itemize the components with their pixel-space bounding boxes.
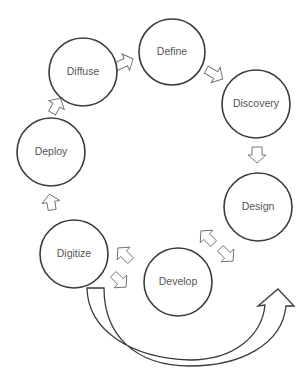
node-define: Define — [139, 19, 205, 85]
node-label: Deploy — [35, 145, 68, 157]
node-label: Design — [242, 200, 275, 212]
node-deploy: Deploy — [17, 118, 85, 186]
node-diffuse: Diffuse — [49, 38, 117, 106]
node-label: Discovery — [233, 97, 280, 109]
node-label: Define — [157, 45, 188, 57]
arrow-digitize-to-deploy-icon — [41, 193, 62, 212]
arrow-develop-to-design-icon — [195, 225, 220, 250]
arrow-develop-to-digitize-icon — [112, 242, 137, 267]
node-label: Diffuse — [67, 65, 100, 77]
node-design: Design — [224, 173, 292, 241]
arrow-define-to-discovery-icon — [202, 62, 227, 87]
node-digitize: Digitize — [40, 220, 108, 288]
node-discovery: Discovery — [222, 70, 290, 138]
arrow-design-to-develop-icon — [214, 242, 239, 267]
arrow-discovery-to-design-icon — [248, 147, 266, 163]
arrow-digitize-to-develop-icon — [107, 268, 132, 293]
cycle-diagram: Define Discovery Design Develop Digitize… — [0, 0, 308, 375]
node-label: Digitize — [57, 247, 92, 259]
node-label: Develop — [159, 275, 198, 287]
node-develop: Develop — [144, 248, 212, 316]
